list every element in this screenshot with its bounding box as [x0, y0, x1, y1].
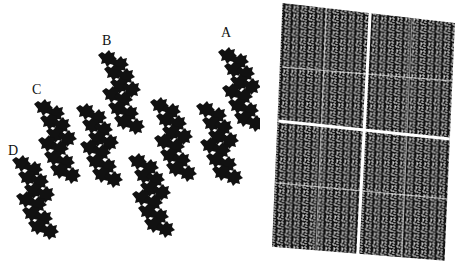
fractal-texture-right [0, 0, 458, 266]
figure: A B C D [0, 0, 458, 266]
